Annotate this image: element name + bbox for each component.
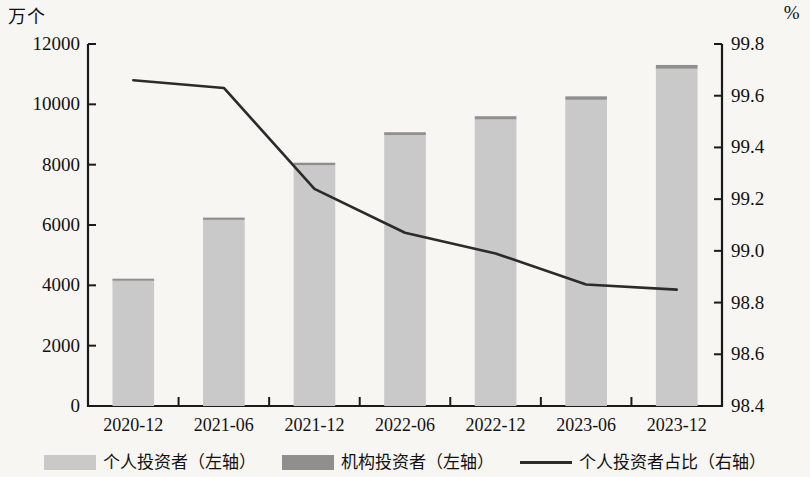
bar-group	[294, 163, 336, 406]
bar-segment	[565, 100, 607, 406]
bar-segment	[203, 220, 245, 406]
bar-group	[203, 218, 245, 406]
plot-area	[0, 0, 810, 477]
bar-group	[112, 279, 154, 406]
legend-label: 个人投资者（左轴）	[103, 454, 256, 471]
bar-segment	[112, 281, 154, 406]
legend-item[interactable]: 个人投资者（左轴）	[44, 454, 256, 471]
legend-label: 个人投资者占比（右轴）	[579, 454, 766, 471]
bar-group	[384, 132, 426, 406]
bar-segment	[475, 119, 517, 406]
legend-item[interactable]: 个人投资者占比（右轴）	[520, 454, 766, 471]
bar-group	[565, 96, 607, 406]
bar-segment	[384, 132, 426, 135]
legend-item[interactable]: 机构投资者（左轴）	[282, 454, 494, 471]
bar-segment	[656, 69, 698, 406]
bar-segment	[656, 65, 698, 69]
bar-segment	[565, 96, 607, 99]
bar-segment	[294, 165, 336, 406]
legend-label: 机构投资者（左轴）	[341, 454, 494, 471]
legend-line-marker	[520, 461, 572, 464]
bar-segment	[203, 218, 245, 220]
bar-segment	[384, 135, 426, 406]
bar-segment	[475, 116, 517, 119]
bar-segment	[294, 163, 336, 166]
chart-legend: 个人投资者（左轴）机构投资者（左轴）个人投资者占比（右轴）	[0, 454, 810, 471]
bar-group	[475, 116, 517, 406]
chart-container: 万个 % 12000100008000600040002000099.899.6…	[0, 0, 810, 477]
bar-segment	[112, 279, 154, 281]
legend-color-swatch	[282, 455, 334, 470]
bar-group	[656, 65, 698, 406]
legend-color-swatch	[44, 455, 96, 470]
